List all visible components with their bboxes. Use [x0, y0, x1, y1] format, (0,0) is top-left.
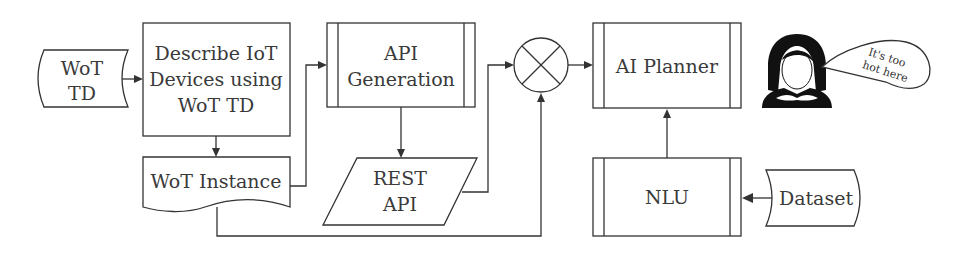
- woman-user-icon: [762, 34, 832, 108]
- ai-planner-label: AI Planner: [615, 55, 719, 77]
- node-rest-api: REST API: [323, 158, 477, 225]
- rest-api-label-1: REST: [373, 167, 427, 189]
- wot-instance-label: WoT Instance: [151, 170, 282, 192]
- describe-label-1: Describe IoT: [154, 42, 277, 64]
- wot-td-label-1: WoT: [61, 57, 104, 79]
- node-merge-junction: [514, 38, 568, 92]
- arrow-merge-to-ai-planner: [568, 61, 593, 69]
- node-ai-planner: AI Planner: [593, 23, 741, 108]
- node-api-generation: API Generation: [327, 23, 475, 107]
- rest-api-label-2: API: [382, 193, 417, 215]
- node-nlu: NLU: [593, 158, 741, 236]
- describe-label-2: Devices using: [149, 68, 282, 90]
- node-dataset: Dataset: [766, 170, 860, 226]
- arrow-wot-instance-to-api-generation: [290, 61, 327, 186]
- api-generation-label-1: API: [383, 42, 418, 64]
- nlu-label: NLU: [645, 186, 689, 208]
- speech-bubble: It's too hot here: [822, 41, 930, 89]
- arrow-api-generation-to-rest-api: [397, 107, 405, 158]
- dataset-label: Dataset: [779, 187, 854, 209]
- wot-td-label-2: TD: [68, 82, 96, 104]
- describe-label-3: WoT TD: [178, 94, 254, 116]
- arrow-wot-td-to-describe: [122, 75, 143, 83]
- node-wot-instance: WoT Instance: [143, 157, 290, 212]
- arrow-dataset-to-nlu: [742, 193, 772, 203]
- node-wot-td: WoT TD: [38, 50, 128, 107]
- api-generation-label-2: Generation: [347, 68, 455, 90]
- iot-ai-planner-diagram: WoT TD Describe IoT Devices using WoT TD…: [0, 0, 964, 257]
- node-describe-iot-devices: Describe IoT Devices using WoT TD: [143, 23, 290, 136]
- arrow-nlu-to-ai-planner: [663, 109, 671, 158]
- arrow-describe-to-wot-instance: [212, 136, 220, 157]
